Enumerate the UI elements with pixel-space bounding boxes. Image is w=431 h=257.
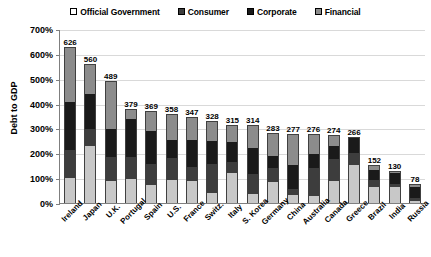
stacked-bar[interactable]: 626	[64, 47, 76, 203]
bar-value-label: 130	[388, 162, 401, 171]
bar-column[interactable]: 315	[222, 30, 242, 203]
bar-segment-corporate	[248, 148, 258, 174]
bar-segment-corporate	[106, 129, 116, 157]
stacked-bar[interactable]: 152	[368, 165, 380, 203]
bar-segment-consumer	[167, 158, 177, 180]
bar-column[interactable]: 560	[80, 30, 100, 203]
legend-item-official-government[interactable]: Official Government	[70, 7, 159, 17]
bar-column[interactable]: 276	[303, 30, 323, 203]
bar-segment-financial	[288, 135, 298, 165]
bar-column[interactable]: 277	[283, 30, 303, 203]
legend-label: Consumer	[188, 7, 229, 17]
stacked-bar[interactable]: 369	[145, 111, 157, 203]
bar-segment-consumer	[268, 168, 278, 183]
bar-segment-consumer	[126, 157, 136, 180]
stacked-bar[interactable]: 358	[166, 114, 178, 203]
bar-column[interactable]: 130	[385, 30, 405, 203]
bar-segment-financial	[85, 65, 95, 94]
stacked-bar[interactable]: 274	[328, 135, 340, 203]
bar-segment-corporate	[309, 154, 319, 168]
bar-segment-official-government	[268, 182, 278, 203]
y-axis-tick-label: 700%	[30, 25, 53, 35]
stacked-bar[interactable]: 347	[186, 117, 198, 203]
x-axis-label-slot: Switz.	[201, 206, 221, 256]
bar-column[interactable]: 314	[243, 30, 263, 203]
bar-segment-financial	[146, 112, 156, 131]
bar-value-label: 152	[368, 156, 381, 165]
stacked-bar[interactable]: 314	[247, 125, 259, 203]
bar-segment-official-government	[106, 181, 116, 203]
bar-segment-financial	[268, 134, 278, 156]
bar-segment-consumer	[349, 153, 359, 165]
stacked-bar[interactable]: 328	[206, 121, 218, 203]
bar-value-label: 489	[104, 72, 117, 81]
bar-segment-corporate	[167, 140, 177, 159]
stacked-bar[interactable]: 130	[389, 171, 401, 203]
bar-value-label: 276	[307, 125, 320, 134]
bar-column[interactable]: 78	[405, 30, 425, 203]
bar-column[interactable]: 283	[263, 30, 283, 203]
bar-column[interactable]: 626	[60, 30, 80, 203]
stacked-bar[interactable]: 489	[105, 81, 117, 203]
x-axis-label-slot: U.K.	[100, 206, 120, 256]
bar-segment-financial	[248, 126, 258, 148]
bar-segment-corporate	[126, 119, 136, 157]
bar-column[interactable]: 266	[344, 30, 364, 203]
bar-column[interactable]: 328	[202, 30, 222, 203]
chart-legend: Official GovernmentConsumerCorporateFina…	[0, 5, 431, 18]
plot-area: 0%100%200%300%400%500%600%700% 626560489…	[59, 30, 425, 204]
bar-segment-financial	[65, 48, 75, 102]
legend-item-consumer[interactable]: Consumer	[178, 7, 229, 17]
x-axis-label-slot: Portugal	[120, 206, 140, 256]
bar-column[interactable]: 347	[182, 30, 202, 203]
bar-segment-financial	[329, 136, 339, 146]
bar-segment-consumer	[65, 150, 75, 178]
x-axis-label-slot: India	[384, 206, 404, 256]
x-axis-label-slot: Australia	[303, 206, 323, 256]
bar-series-group: 6265604893793693583473283153142832772762…	[60, 30, 425, 203]
legend-swatch-icon	[178, 8, 185, 15]
bar-segment-consumer	[369, 180, 379, 187]
bar-segment-corporate	[187, 140, 197, 167]
bar-segment-corporate	[390, 173, 400, 183]
bar-segment-financial	[227, 126, 237, 142]
stacked-bar[interactable]: 315	[226, 125, 238, 203]
bar-segment-corporate	[85, 94, 95, 129]
bar-segment-official-government	[187, 181, 197, 203]
bar-value-label: 283	[266, 124, 279, 133]
bar-value-label: 266	[347, 128, 360, 137]
bar-value-label: 314	[246, 116, 259, 125]
stacked-bar[interactable]: 78	[409, 184, 421, 203]
bar-column[interactable]: 274	[324, 30, 344, 203]
bar-segment-corporate	[288, 165, 298, 189]
x-axis-label-slot: France	[181, 206, 201, 256]
bar-column[interactable]: 379	[121, 30, 141, 203]
bar-column[interactable]: 369	[141, 30, 161, 203]
stacked-bar[interactable]: 379	[125, 109, 137, 203]
bar-column[interactable]: 358	[161, 30, 181, 203]
x-axis-label-slot: Greece	[344, 206, 364, 256]
x-axis-label-slot: S. Korea	[242, 206, 262, 256]
x-axis-label-slot: Japan	[79, 206, 99, 256]
stacked-bar[interactable]: 560	[84, 64, 96, 203]
bar-segment-corporate	[268, 156, 278, 168]
stacked-bar[interactable]: 266	[348, 137, 360, 203]
bar-segment-official-government	[390, 187, 400, 203]
y-axis-tick-label: 500%	[30, 75, 53, 85]
x-axis-label-slot: Ireland	[59, 206, 79, 256]
x-axis-labels: IrelandJapanU.K.PortugalSpainU.S.FranceS…	[59, 206, 425, 256]
bar-segment-financial	[207, 122, 217, 141]
bar-column[interactable]: 152	[364, 30, 384, 203]
stacked-bar[interactable]: 276	[308, 134, 320, 203]
y-axis-tick-label: 400%	[30, 100, 53, 110]
bar-column[interactable]: 489	[101, 30, 121, 203]
bar-value-label: 78	[410, 175, 419, 184]
legend-item-corporate[interactable]: Corporate	[247, 7, 297, 17]
bar-value-label: 274	[327, 126, 340, 135]
legend-item-financial[interactable]: Financial	[315, 7, 361, 17]
bar-segment-consumer	[248, 174, 258, 194]
stacked-bar[interactable]: 283	[267, 133, 279, 203]
stacked-bar[interactable]: 277	[287, 134, 299, 203]
chart-container: Official GovernmentConsumerCorporateFina…	[0, 0, 431, 257]
x-axis-label-slot: U.S.	[161, 206, 181, 256]
